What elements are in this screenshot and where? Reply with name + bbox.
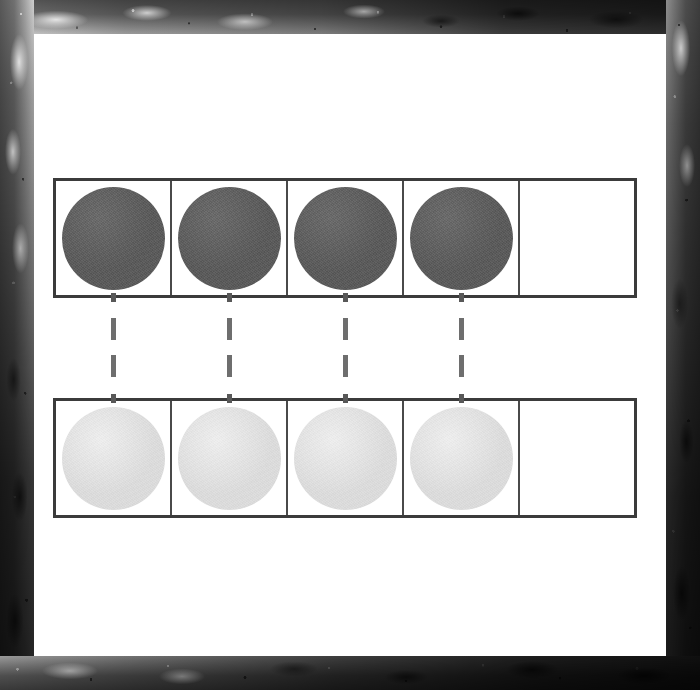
connector-dash-3b [343,355,348,377]
dark-counter-4[interactable] [410,187,513,290]
match-connector-1 [111,293,116,403]
bottom-cell-2[interactable] [172,401,288,515]
dark-counter-1[interactable] [62,187,165,290]
connector-tick-bottom-1 [111,394,116,403]
connector-tick-top-4 [459,293,464,302]
connector-tick-top-2 [227,293,232,302]
dark-counter-2[interactable] [178,187,281,290]
light-counter-2[interactable] [178,407,281,510]
top-cell-2[interactable] [172,181,288,295]
bottom-cell-4[interactable] [404,401,520,515]
connector-dash-3a [343,318,348,340]
worksheet-scan [0,0,700,690]
bottom-cell-5-empty[interactable] [520,401,634,515]
bottom-counter-frame [53,398,637,518]
connector-tick-bottom-3 [343,394,348,403]
worksheet-content [0,0,700,690]
connector-dash-1b [111,355,116,377]
top-cell-3[interactable] [288,181,404,295]
dark-counter-3[interactable] [294,187,397,290]
match-connector-2 [227,293,232,403]
top-cell-5-empty[interactable] [520,181,634,295]
connector-tick-top-3 [343,293,348,302]
connector-tick-bottom-2 [227,394,232,403]
connector-dash-2a [227,318,232,340]
connector-dash-4a [459,318,464,340]
light-counter-3[interactable] [294,407,397,510]
match-connector-4 [459,293,464,403]
top-cell-1[interactable] [56,181,172,295]
connector-tick-bottom-4 [459,394,464,403]
connector-dash-1a [111,318,116,340]
top-counter-frame [53,178,637,298]
light-counter-1[interactable] [62,407,165,510]
connector-dash-2b [227,355,232,377]
bottom-cell-1[interactable] [56,401,172,515]
connector-dash-4b [459,355,464,377]
bottom-cell-3[interactable] [288,401,404,515]
match-connector-3 [343,293,348,403]
light-counter-4[interactable] [410,407,513,510]
connector-tick-top-1 [111,293,116,302]
top-cell-4[interactable] [404,181,520,295]
